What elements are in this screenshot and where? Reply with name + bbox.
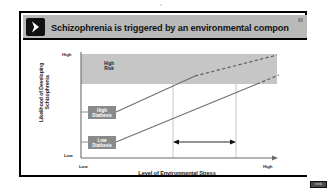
chevron-right-icon	[26, 18, 45, 36]
footer-badge-text: verify	[311, 182, 326, 187]
high-diathesis-label: High Diathesis	[88, 106, 116, 119]
slide-frame: Schizophrenia is triggered by an environ…	[19, 11, 307, 177]
high-risk-label: High Risk	[96, 61, 122, 72]
x-axis-title: Level of Environmental Stress	[79, 170, 275, 175]
x-axis-tick-low: Low	[79, 164, 87, 169]
low-diathesis-label-line1: Low	[98, 138, 107, 143]
y-axis-title-line2: Schizophrenia	[44, 75, 50, 109]
scan-artifact-speck	[160, 4, 162, 6]
y-axis-title: Likelihood of Developing Schizophrenia	[38, 48, 51, 136]
footer-badge: verify	[310, 181, 327, 188]
slide-title-bar: Schizophrenia is triggered by an environ…	[23, 15, 307, 40]
high-risk-label-line2: Risk	[104, 66, 113, 71]
chart-container: High Risk High Diathesis Low Diathesis H…	[23, 40, 307, 175]
low-diathesis-label-line2: Diathesis	[92, 143, 112, 148]
slide-corner-marker	[298, 18, 303, 22]
slide-title: Schizophrenia is triggered by an environ…	[51, 19, 289, 37]
high-risk-label-line1: High	[104, 61, 114, 66]
low-diathesis-label: Low Diathesis	[88, 136, 116, 149]
y-axis-tick-high: High	[62, 52, 71, 57]
high-diathesis-label-line2: Diathesis	[92, 113, 112, 118]
y-axis-title-line1: Likelihood of Developing	[38, 63, 44, 122]
y-axis-tick-low: Low	[64, 153, 72, 158]
x-axis-tick-high: High	[263, 164, 272, 169]
high-diathesis-label-line1: High	[97, 108, 107, 113]
